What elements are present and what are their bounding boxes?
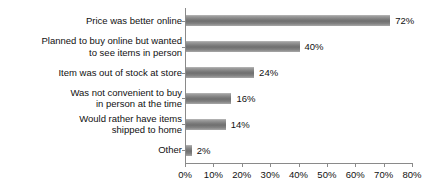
x-axis-tick-label: 20% — [232, 169, 251, 181]
bar — [186, 67, 254, 78]
chart-bar-row: Other2% — [0, 137, 432, 163]
category-label-line: Planned to buy online but wanted — [42, 35, 183, 46]
bar-value-label: 16% — [236, 93, 255, 104]
bar-group: 40% — [186, 34, 324, 60]
bar-value-label: 14% — [231, 119, 250, 130]
x-axis-tick-mark — [242, 163, 243, 167]
category-label-line: Price was better online — [86, 15, 182, 26]
bar-group: 16% — [186, 86, 255, 112]
x-axis-tick-mark — [412, 163, 413, 167]
chart-bar-row: Would rather have itemsshipped to home14… — [0, 111, 432, 137]
category-label: Was not convenient to buyin person at th… — [2, 86, 182, 112]
category-label: Price was better online — [2, 8, 182, 34]
x-axis-tick-mark — [299, 163, 300, 167]
x-axis-tick-label: 80% — [402, 169, 421, 181]
x-axis-tick-mark — [213, 163, 214, 167]
x-axis-tick-label: 0% — [178, 169, 192, 181]
bar-value-label: 24% — [259, 67, 278, 78]
x-axis-tick-mark — [270, 163, 271, 167]
x-axis-tick-mark — [384, 163, 385, 167]
chart-bar-row: Item was out of stock at store24% — [0, 60, 432, 86]
category-label: Would rather have itemsshipped to home — [2, 111, 182, 137]
category-label-line: Other — [158, 144, 182, 155]
chart-bar-row: Price was better online72% — [0, 8, 432, 34]
bar — [186, 15, 390, 26]
x-axis-tick-mark — [355, 163, 356, 167]
category-label: Planned to buy online but wantedto see i… — [2, 34, 182, 60]
bar — [186, 145, 192, 156]
x-axis-tick-label: 30% — [261, 169, 280, 181]
bar — [186, 93, 231, 104]
bar-value-label: 40% — [305, 41, 324, 52]
x-axis-tick-label: 50% — [317, 169, 336, 181]
x-axis-tick-mark — [185, 163, 186, 167]
chart-bar-row: Was not convenient to buyin person at th… — [0, 86, 432, 112]
category-label-line: shipped to home — [112, 124, 182, 135]
x-axis-tick-label: 40% — [289, 169, 308, 181]
x-axis-tick-label: 60% — [346, 169, 365, 181]
category-label: Other — [2, 137, 182, 163]
bar — [186, 119, 226, 130]
category-label-line: in person at the time — [96, 98, 182, 109]
bar-value-label: 2% — [197, 145, 211, 156]
bar-group: 14% — [186, 111, 250, 137]
category-label-line: to see items in person — [89, 47, 182, 58]
x-axis-tick-mark — [327, 163, 328, 167]
chart-rows: Price was better online72%Planned to buy… — [0, 0, 432, 155]
x-axis-tick-label: 10% — [204, 169, 223, 181]
bar-group: 2% — [186, 137, 210, 163]
bar — [186, 41, 300, 52]
category-label-line: Would rather have items — [79, 113, 182, 124]
y-axis-line — [185, 8, 186, 164]
category-label: Item was out of stock at store — [2, 60, 182, 86]
bar-group: 24% — [186, 60, 278, 86]
bar-group: 72% — [186, 8, 414, 34]
bar-chart: Price was better online72%Planned to buy… — [0, 0, 432, 189]
x-axis-tick-label: 70% — [374, 169, 393, 181]
category-label-line: Was not convenient to buy — [70, 87, 182, 98]
chart-bar-row: Planned to buy online but wantedto see i… — [0, 34, 432, 60]
bar-value-label: 72% — [395, 15, 414, 26]
category-label-line: Item was out of stock at store — [58, 67, 182, 78]
x-axis-ticks: 0%10%20%30%40%50%60%70%80% — [0, 163, 432, 189]
